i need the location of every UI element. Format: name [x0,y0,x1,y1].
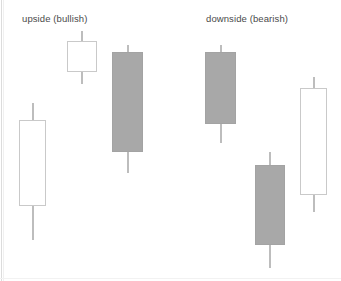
candlestick-6-body [300,88,327,195]
page-edge-artifact-bottom [0,278,341,279]
candlestick-6-bearish [300,77,327,212]
candlestick-3-body [112,52,143,152]
candlestick-2-body [67,41,97,72]
page-edge-artifact-left-2 [3,0,4,281]
candlestick-1-body [19,120,46,206]
page-edge-artifact-left [1,0,2,281]
candlestick-1-bullish [19,103,46,240]
candlestick-4-body [205,52,236,124]
candlestick-4-bearish [205,45,236,143]
group-label-bearish: downside (bearish) [206,13,288,24]
group-label-bullish: upside (bullish) [22,13,88,24]
candlestick-5-bearish [255,152,285,268]
candlestick-5-body [255,165,285,245]
candlestick-3-bullish [112,45,143,173]
candlestick-chart: upside (bullish) downside (bearish) [0,0,341,281]
candlestick-2-bullish [67,31,97,84]
